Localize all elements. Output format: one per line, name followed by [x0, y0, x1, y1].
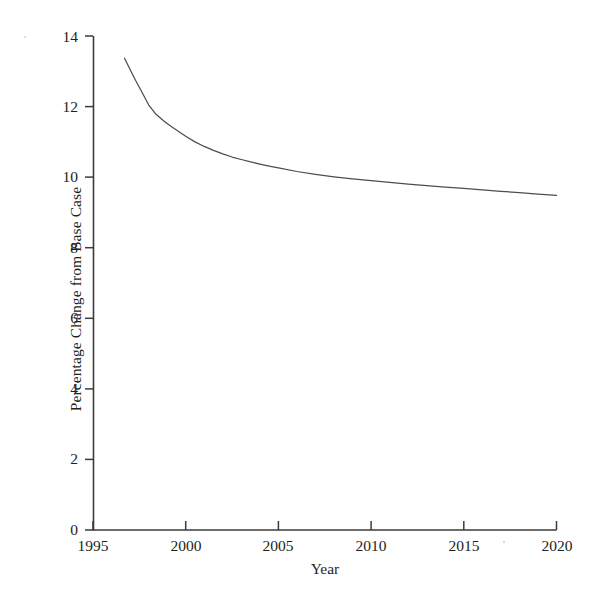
plot-area — [0, 0, 592, 598]
data-line-percentage-change — [125, 58, 557, 195]
chart-figure: Percentage Change from Base Case 14 12 1… — [0, 0, 592, 598]
y-axis-ticks — [85, 36, 93, 530]
scan-speck — [503, 541, 505, 543]
scan-speck — [24, 36, 26, 38]
x-axis-ticks — [93, 521, 557, 530]
